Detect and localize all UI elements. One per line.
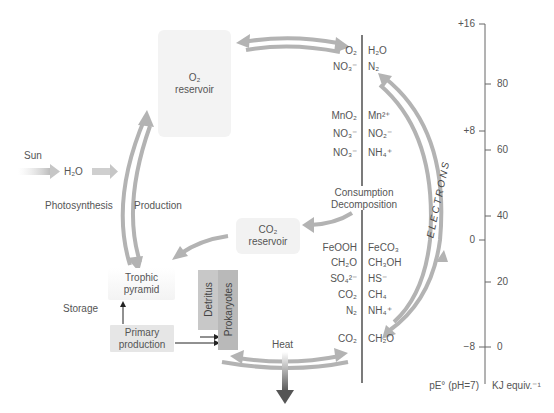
oxidized-label: FeOOH <box>323 242 357 254</box>
o2-exchange-arrow <box>243 38 340 52</box>
detritus-box: Detritus <box>198 270 218 330</box>
arrow-head-left-top <box>236 34 250 48</box>
kj-tick: 40 <box>497 210 508 222</box>
kj-tick: 60 <box>497 144 508 156</box>
reduced-label: N₂ <box>368 61 379 73</box>
consumption-label: Consumption <box>333 187 395 199</box>
primary-production-box: Primary production <box>110 325 174 352</box>
co2-reservoir-box: CO₂ reservoir <box>236 218 300 254</box>
primary-production-line2: production <box>119 339 166 351</box>
kj-tick: 0 <box>497 341 503 353</box>
water-label: H₂O <box>64 166 83 178</box>
kj-tick: 80 <box>497 78 508 90</box>
reduced-label: NH₄⁺ <box>368 147 392 159</box>
reduced-label: CH₂O <box>368 333 394 345</box>
decomposition-label: Decomposition <box>325 199 403 211</box>
o2-reservoir-title: O₂ <box>189 72 201 84</box>
storage-label: Storage <box>63 303 98 315</box>
co2-reservoir-subtitle: reservoir <box>249 236 288 248</box>
production-arc <box>123 118 150 265</box>
oxidized-label: CO₂ <box>338 333 357 345</box>
oxidized-label: N₂ <box>346 305 357 317</box>
reduced-label: CH₃OH <box>368 257 402 269</box>
reduced-label: NH₄⁺ <box>368 305 392 317</box>
arrow-head-production <box>138 110 154 127</box>
oxidized-label: NO₃⁻ <box>333 147 357 159</box>
sun-ray <box>18 168 50 175</box>
pe-tick: +8 <box>464 125 475 137</box>
arrow-head-to-co2 <box>302 217 314 233</box>
sun-label: Sun <box>24 150 42 162</box>
oxidized-label: NO₃⁻ <box>333 128 357 140</box>
oxidized-label: SO₄²⁻ <box>330 273 357 285</box>
heat-arrow-shaft <box>282 352 288 392</box>
detritus-label: Detritus <box>203 270 214 330</box>
trophic-pyramid-box: Trophic pyramid <box>108 268 175 300</box>
photosynthesis-label: Photosynthesis <box>45 200 113 212</box>
oxidized-label: NO₃⁻ <box>333 61 357 73</box>
oxidized-label: MnO₂ <box>331 110 357 122</box>
pe-tick: −8 <box>464 341 475 353</box>
kj-tick: 20 <box>497 276 508 288</box>
production-label: Production <box>134 200 182 212</box>
reduced-label: CH₄ <box>368 289 387 301</box>
pe-axis-label: pE° (pH=7) <box>429 380 479 392</box>
prokaryotes-label: Prokaryotes <box>223 270 234 350</box>
reduced-label: H₂O <box>368 45 387 57</box>
primary-production-line1: Primary <box>125 327 159 339</box>
co2-reservoir-title: CO₂ <box>259 224 278 236</box>
prokaryotes-box: Prokaryotes <box>218 270 238 350</box>
o2-reservoir-subtitle: reservoir <box>175 84 214 96</box>
oxidized-label: CH₂O <box>331 257 357 269</box>
heat-arrow-head <box>276 390 294 404</box>
reduced-label: NO₂⁻ <box>368 128 392 140</box>
reduced-label: Mn²⁺ <box>368 110 390 122</box>
oxidized-label: CO₂ <box>338 289 357 301</box>
pe-tick: +16 <box>458 18 475 30</box>
trophic-pyramid-line1: Trophic <box>125 272 158 284</box>
reduced-label: HS⁻ <box>368 273 387 285</box>
pe-tick: 0 <box>469 234 475 246</box>
reduced-label: FeCO₃ <box>368 242 399 254</box>
trophic-pyramid-line2: pyramid <box>124 284 160 296</box>
heat-label: Heat <box>272 339 293 351</box>
o2-reservoir-box: O₂ reservoir <box>158 30 231 137</box>
oxidized-label: O₂ <box>345 45 357 57</box>
kj-axis-label: KJ equiv.⁻¹ <box>492 380 541 392</box>
